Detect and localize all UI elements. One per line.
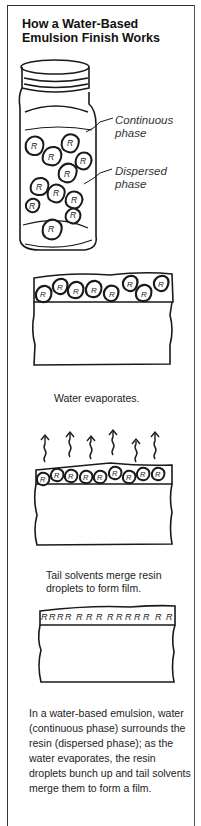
svg-text:R: R: [143, 612, 150, 622]
svg-text:R: R: [126, 473, 132, 482]
svg-text:R: R: [65, 612, 72, 622]
svg-text:R: R: [140, 470, 146, 479]
svg-text:R: R: [155, 612, 162, 622]
svg-text:R: R: [80, 156, 86, 166]
continuous-phase-label: Continuous phase: [115, 114, 185, 140]
svg-text:R: R: [86, 612, 93, 622]
svg-text:R: R: [53, 188, 59, 198]
svg-text:R: R: [107, 612, 114, 622]
svg-text:R: R: [40, 475, 46, 484]
svg-text:R: R: [116, 612, 123, 622]
svg-text:R: R: [40, 290, 46, 299]
svg-text:R: R: [134, 612, 141, 622]
step-2-caption: Water evaporates.: [54, 392, 174, 405]
svg-text:R: R: [36, 182, 42, 192]
svg-text:R: R: [125, 612, 132, 622]
svg-text:R: R: [57, 612, 64, 622]
svg-text:R: R: [29, 201, 35, 211]
svg-text:R: R: [97, 473, 103, 482]
svg-text:R: R: [166, 612, 173, 622]
dispersed-phase-label: Dispersed phase: [115, 165, 185, 191]
svg-text:R: R: [141, 290, 147, 299]
svg-text:R: R: [112, 469, 118, 478]
svg-text:R: R: [83, 473, 89, 482]
svg-text:R: R: [71, 195, 77, 205]
svg-text:R: R: [109, 290, 115, 299]
evaporation-illustration: RRR RRR RRR: [0, 425, 201, 555]
svg-text:R: R: [48, 224, 54, 234]
svg-text:R: R: [73, 287, 79, 296]
svg-text:R: R: [48, 152, 54, 162]
svg-text:R: R: [68, 472, 74, 481]
svg-text:R: R: [91, 286, 97, 295]
svg-text:R: R: [96, 612, 103, 622]
svg-text:R: R: [76, 612, 83, 622]
svg-text:R: R: [158, 280, 164, 289]
substrate-droplets-illustration: R R R R R R R R: [0, 268, 201, 378]
svg-text:R: R: [49, 612, 56, 622]
svg-text:R: R: [41, 612, 48, 622]
film-illustration: RRRR RRRR RRRR RR: [0, 600, 201, 690]
svg-text:R: R: [127, 280, 133, 289]
svg-text:R: R: [155, 470, 161, 479]
step-3-caption: Tail solvents merge resin droplets to fo…: [46, 569, 171, 595]
svg-text:R: R: [67, 138, 73, 148]
svg-text:R: R: [70, 210, 76, 220]
svg-text:R: R: [57, 283, 63, 292]
svg-text:R: R: [31, 141, 37, 151]
svg-text:R: R: [54, 471, 60, 480]
figure-description: In a water-based emulsion, water (contin…: [29, 706, 194, 796]
svg-text:R: R: [64, 169, 70, 179]
